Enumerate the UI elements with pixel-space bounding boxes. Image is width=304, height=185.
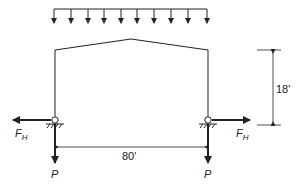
left-horizontal-force-label: FH xyxy=(15,127,28,142)
right-vertical-force-label: P xyxy=(204,168,212,180)
right-horizontal-force-label: FH xyxy=(236,127,249,142)
gable-frame xyxy=(55,39,208,117)
distributed-load xyxy=(54,9,207,23)
left-vertical-force-label: P xyxy=(51,168,59,180)
frame-diagram: 18' 80' FH FH P P xyxy=(0,0,304,185)
height-dimension-label: 18' xyxy=(276,83,290,95)
span-dimension-label: 80' xyxy=(122,150,136,162)
